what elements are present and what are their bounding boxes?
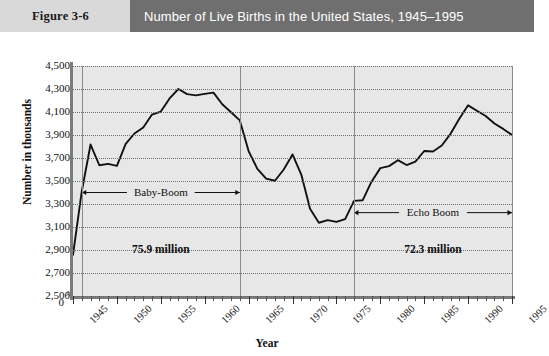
x-axis-tick-label: 1990 [482, 303, 505, 326]
x-axis-tick-label: 1975 [351, 303, 374, 326]
x-axis-title: Year [0, 337, 534, 349]
gridline [73, 112, 512, 113]
y-axis-tick-label: 4,300 [6, 83, 70, 94]
annotation-label-baby-boom-total: 75.9 million [132, 243, 190, 255]
x-axis-tick-label: 1960 [219, 303, 242, 326]
x-axis-tick [284, 296, 285, 301]
annotation-label-baby-boom: Baby-Boom [134, 186, 188, 198]
x-axis-tick [231, 296, 232, 301]
x-axis-tick-label: 1985 [438, 303, 461, 326]
x-axis-tick [477, 296, 478, 301]
x-axis-tick [178, 296, 179, 301]
x-axis-tick [451, 296, 452, 301]
gridline [73, 273, 512, 274]
y-axis-tick-label: 3,700 [6, 152, 70, 163]
vertical-marker-baby-boom-end [240, 66, 241, 296]
x-axis-tick [222, 296, 223, 301]
y-axis-tick-label: 3,300 [6, 198, 70, 209]
x-axis-tick [82, 296, 83, 301]
live-births-series [73, 89, 512, 255]
y-axis-tick-label: 4,500 [6, 60, 70, 71]
x-axis-tick [240, 296, 241, 301]
x-axis-tick [424, 296, 425, 304]
x-axis-tick [161, 296, 162, 304]
figure-header: Figure 3-6 Number of Live Births in the … [0, 0, 534, 32]
x-axis-tick [494, 296, 495, 301]
x-axis-tick-label: 1945 [87, 303, 110, 326]
gridline [73, 181, 512, 182]
vertical-marker-echo-boom-end [512, 66, 513, 296]
x-axis-tick [126, 296, 127, 301]
x-axis-tick [301, 296, 302, 301]
annotation-label-echo-boom: Echo Boom [407, 206, 459, 218]
x-axis-tick [512, 296, 513, 304]
x-axis-tick [433, 296, 434, 301]
x-axis-tick [328, 296, 329, 301]
x-axis-tick [380, 296, 381, 304]
x-axis-tick-label: 1950 [131, 303, 154, 326]
x-axis-tick [134, 296, 135, 301]
y-axis-tick-label: 3,500 [6, 175, 70, 186]
x-axis-tick [275, 296, 276, 301]
x-axis-tick [152, 296, 153, 301]
x-axis-tick [398, 296, 399, 301]
x-axis-tick [143, 296, 144, 301]
y-axis-tick-label: 2,700 [6, 267, 70, 278]
x-axis-tick [187, 296, 188, 301]
figure-title-band: Number of Live Births in the United Stat… [130, 0, 534, 32]
x-axis-tick [117, 296, 118, 304]
vertical-marker-baby-boom-start [82, 66, 83, 296]
x-axis-tick [372, 296, 373, 301]
x-axis-tick [91, 296, 92, 301]
x-axis-tick-label: 1995 [526, 303, 549, 326]
x-axis-tick [503, 296, 504, 301]
x-axis-tick [459, 296, 460, 301]
annotation-label-echo-boom-total: 72.3 million [404, 243, 462, 255]
y-axis-tick-label: 3,100 [6, 221, 70, 232]
x-axis-tick [257, 296, 258, 301]
x-axis-tick [415, 296, 416, 301]
x-axis-tick-label: 1980 [394, 303, 417, 326]
page-title: Number of Live Births in the United Stat… [144, 9, 464, 24]
y-axis-zero-label: 0 [0, 296, 64, 308]
plot-area [73, 66, 512, 296]
gridline [73, 66, 512, 67]
y-axis-tick-label: 3,900 [6, 129, 70, 140]
x-axis-tick-label: 1965 [263, 303, 286, 326]
x-axis-tick-label: 1955 [175, 303, 198, 326]
x-axis-tick [319, 296, 320, 301]
x-axis-tick [345, 296, 346, 301]
x-axis-tick [196, 296, 197, 301]
x-axis-tick [293, 296, 294, 304]
x-axis-tick [108, 296, 109, 301]
x-axis-tick [363, 296, 364, 301]
gridline [73, 89, 512, 90]
x-axis-tick [354, 296, 355, 301]
x-axis-tick [266, 296, 267, 301]
x-axis-tick [73, 296, 74, 304]
y-axis-labels: 4,5004,3004,1003,9003,7003,5003,3003,100… [0, 0, 70, 320]
x-axis-tick [249, 296, 250, 304]
x-axis-tick [486, 296, 487, 301]
y-axis-tick-label: 2,900 [6, 244, 70, 255]
x-axis-tick [213, 296, 214, 301]
x-axis-tick [389, 296, 390, 301]
x-axis-tick-label: 1970 [307, 303, 330, 326]
x-axis-tick [99, 296, 100, 301]
x-axis-tick [310, 296, 311, 301]
gridline [73, 135, 512, 136]
gridline [73, 227, 512, 228]
gridline [73, 158, 512, 159]
y-axis-tick-label: 4,100 [6, 106, 70, 117]
vertical-marker-echo-boom-start [354, 66, 355, 296]
x-axis-tick [170, 296, 171, 301]
x-axis-tick [407, 296, 408, 301]
x-axis-tick [205, 296, 206, 304]
x-axis-tick [468, 296, 469, 304]
x-axis-tick [442, 296, 443, 301]
y-axis-title: Number in thousands [21, 77, 33, 227]
x-axis-tick [336, 296, 337, 304]
